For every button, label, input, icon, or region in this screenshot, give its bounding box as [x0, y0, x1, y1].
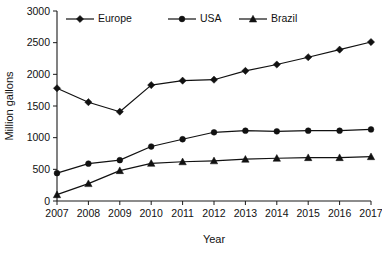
x-tick-label: 2008	[77, 207, 101, 219]
series-line-usa	[57, 129, 371, 173]
chart-container: 0500100015002000250030002007200820092010…	[0, 0, 382, 253]
y-tick-label: 0	[44, 195, 50, 207]
data-point-brazil	[85, 180, 92, 187]
data-point-europe	[179, 77, 186, 84]
x-tick-label: 2007	[45, 207, 69, 219]
x-tick-label: 2017	[359, 207, 382, 219]
data-point-usa	[86, 161, 92, 167]
x-tick-label: 2012	[202, 207, 226, 219]
legend-marker-europe	[76, 15, 83, 22]
data-point-europe	[367, 38, 374, 45]
data-point-usa	[117, 157, 123, 163]
data-point-europe	[336, 46, 343, 53]
data-point-usa	[368, 127, 374, 133]
x-tick-label: 2013	[234, 207, 258, 219]
legend-label-europe: Europe	[98, 12, 132, 24]
x-tick-label: 2010	[140, 207, 164, 219]
line-chart: 0500100015002000250030002007200820092010…	[0, 0, 382, 253]
data-point-usa	[211, 129, 217, 135]
legend-marker-usa	[179, 16, 185, 22]
x-tick-label: 2014	[265, 207, 289, 219]
y-tick-label: 1000	[27, 131, 51, 143]
x-tick-label: 2009	[108, 207, 132, 219]
data-point-europe	[273, 61, 280, 68]
data-point-europe	[305, 54, 312, 61]
x-tick-label: 2011	[171, 207, 194, 219]
legend-label-usa: USA	[200, 12, 222, 24]
data-point-europe	[242, 67, 249, 74]
data-point-usa	[305, 128, 311, 134]
y-tick-label: 500	[32, 163, 50, 175]
data-point-usa	[180, 136, 186, 142]
x-tick-label: 2015	[297, 207, 321, 219]
y-tick-label: 3000	[27, 5, 51, 17]
data-point-usa	[148, 144, 154, 150]
data-point-usa	[54, 170, 60, 176]
data-point-usa	[243, 128, 249, 134]
data-point-usa	[274, 128, 280, 134]
data-point-europe	[210, 76, 217, 83]
data-point-europe	[53, 85, 60, 92]
y-tick-label: 2500	[27, 36, 51, 48]
y-tick-label: 1500	[27, 100, 51, 112]
x-axis-title: Year	[203, 233, 226, 245]
y-axis-title: Million gallons	[3, 71, 15, 141]
data-point-europe	[85, 99, 92, 106]
y-tick-label: 2000	[27, 68, 51, 80]
x-tick-label: 2016	[328, 207, 352, 219]
legend-label-brazil: Brazil	[271, 12, 297, 24]
data-point-usa	[337, 128, 343, 134]
